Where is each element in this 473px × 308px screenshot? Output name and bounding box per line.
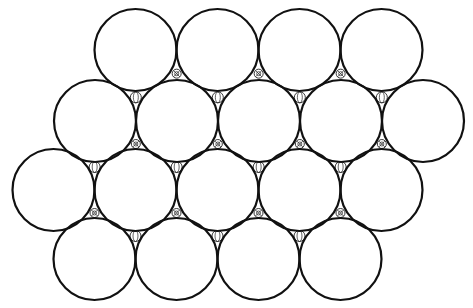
large-circle xyxy=(95,9,177,91)
large-circle xyxy=(341,9,423,91)
hatched-site-icon xyxy=(254,69,263,78)
hatched-site-icon xyxy=(131,140,140,149)
large-circle xyxy=(218,218,300,300)
hatched-site-icon xyxy=(254,209,263,218)
large-circle xyxy=(259,9,341,91)
large-circle xyxy=(95,149,177,231)
large-spheres xyxy=(13,9,465,300)
hatched-site-icon xyxy=(377,140,386,149)
hatched-site-icon xyxy=(295,140,304,149)
hatched-site-icon xyxy=(172,69,181,78)
circle-packing-diagram xyxy=(0,0,473,308)
large-circle xyxy=(177,9,259,91)
large-circle xyxy=(177,149,259,231)
large-circle xyxy=(54,218,136,300)
hatched-site-icon xyxy=(336,209,345,218)
large-circle xyxy=(136,218,218,300)
large-circle xyxy=(259,149,341,231)
hatched-site-icon xyxy=(172,209,181,218)
large-circle xyxy=(13,149,95,231)
large-circle xyxy=(300,218,382,300)
hatched-site-icon xyxy=(213,140,222,149)
hatched-site-icon xyxy=(336,69,345,78)
large-circle xyxy=(382,80,464,162)
large-circle xyxy=(341,149,423,231)
hatched-site-icon xyxy=(90,209,99,218)
